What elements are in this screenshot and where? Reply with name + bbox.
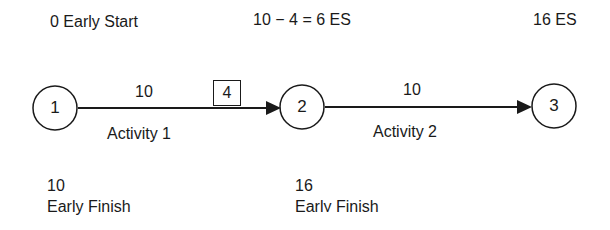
node-1-early-start: 0 Early Start [50,13,138,31]
activity-1-duration: 10 [135,83,153,101]
node-2-early-finish-value: 10 [47,177,65,195]
activity-1-arrowhead [266,101,281,115]
node-3-label: 3 [534,96,574,116]
node-3-early-finish-label: Early Finish [295,198,379,212]
activity-1-label: Activity 1 [107,125,171,143]
node-3-early-finish-value: 16 [295,177,313,195]
node-2-early-finish-label: Early Finish [47,198,131,216]
activity-2-label: Activity 2 [373,123,437,141]
activity-1-lag-box: 4 [213,80,241,106]
node-2-early-start: 10 − 4 = 6 ES [253,11,351,29]
activity-2-arrowhead [517,100,532,114]
node-3-early-start: 16 ES [533,11,577,29]
node-2-label: 2 [282,97,322,117]
node-1-label: 1 [35,98,75,118]
activity-2-duration: 10 [403,81,421,99]
